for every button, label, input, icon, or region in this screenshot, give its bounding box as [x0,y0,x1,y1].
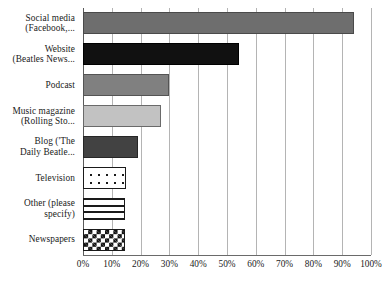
bar [83,105,161,127]
category-label: Website (Beatles News... [13,44,75,65]
x-tick-label: 30% [161,258,178,270]
x-tick-label: 100% [360,258,382,270]
category-label: Newspapers [29,234,75,245]
x-tick-label: 70% [276,258,293,270]
bar [83,12,354,34]
category-axis-labels: Social media (Facebook,...Website (Beatl… [0,8,79,255]
x-axis-line [83,255,371,256]
bar [83,229,125,251]
x-tick-label: 0% [77,258,89,270]
x-tick-label: 90% [334,258,351,270]
x-tick-label: 80% [305,258,322,270]
x-axis-tick-labels: 0%10%20%30%40%50%60%70%80%90%100% [83,258,371,274]
category-label: Other (please specify) [24,198,75,219]
x-tick-label: 20% [132,258,149,270]
bar [83,198,125,220]
x-tick-label: 60% [247,258,264,270]
category-label: Music magazine (Rolling Sto... [13,106,76,127]
category-label: Social media (Facebook,... [25,13,75,34]
category-label: Television [35,173,75,184]
bar [83,43,239,65]
bar [83,167,126,189]
x-tick-label: 40% [190,258,207,270]
gridline-100% [371,8,372,255]
bar-chart: Social media (Facebook,...Website (Beatl… [0,0,391,284]
plot-area [83,8,371,255]
category-label: Podcast [45,80,75,91]
bar-series [83,8,371,255]
bar [83,136,138,158]
x-tick-label: 10% [103,258,120,270]
bar [83,74,169,96]
category-label: Blog ('The Daily Beatle... [20,136,75,157]
x-tick-label: 50% [218,258,235,270]
